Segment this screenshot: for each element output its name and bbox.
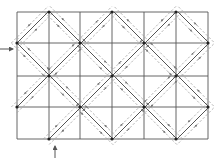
flow-arrow-icon — [162, 19, 164, 21]
sum-diagonal — [177, 108, 208, 139]
flow-arrow-icon — [67, 87, 69, 89]
input-arrows — [0, 49, 55, 158]
diff-diagonal — [178, 12, 208, 42]
flow-arrow-icon — [120, 88, 122, 90]
flow-arrow-icon — [31, 97, 33, 99]
flow-arrow-icon — [192, 52, 194, 54]
flow-arrow-icon — [151, 43, 153, 45]
flow-arrow-icon — [168, 125, 170, 127]
flow-arrow-icon — [34, 29, 36, 31]
dashed-offset-line — [49, 12, 182, 145]
sum-diagonal — [17, 12, 48, 43]
flow-arrow-icon — [23, 54, 25, 56]
flow-arrow-icon — [29, 24, 31, 26]
flow-arrow-icon — [167, 24, 169, 26]
flow-arrow-icon — [72, 44, 74, 46]
flow-arrow-icon — [121, 123, 123, 125]
flow-arrow-icon — [125, 67, 127, 69]
diff-diagonal — [17, 43, 113, 139]
flow-arrow-icon — [105, 61, 107, 63]
vertex-node — [110, 137, 113, 140]
flow-arrow-icon — [102, 26, 104, 28]
vertex-node — [142, 105, 145, 108]
flow-arrow-icon — [98, 82, 100, 84]
flow-arrow-icon — [104, 88, 106, 90]
vertex-node — [110, 10, 113, 13]
flow-arrow-icon — [105, 126, 107, 128]
vertex-node — [206, 41, 209, 44]
flow-arrow-icon — [198, 90, 200, 92]
flow-arrow-icon — [192, 96, 194, 98]
flow-arrow-icon — [194, 125, 196, 127]
vertex-node — [206, 105, 209, 108]
vertices — [15, 10, 209, 140]
vertex-node — [78, 105, 81, 108]
vertex-node — [110, 74, 113, 77]
flow-arrow-icon — [96, 20, 98, 22]
diamond-lattice-diagram — [0, 0, 220, 158]
vertex-node — [174, 10, 177, 13]
flow-arrow-icon — [25, 91, 27, 93]
vertex-node — [15, 105, 18, 108]
flow-arrow-icon — [189, 120, 191, 122]
flow-arrow-icon — [195, 23, 197, 25]
diagram-canvas — [0, 0, 220, 158]
vertex-node — [174, 74, 177, 77]
flow-arrow-icon — [189, 29, 191, 31]
flow-arrow-icon — [163, 130, 165, 132]
vertex-node — [174, 137, 177, 140]
flow-arrow-icon — [169, 73, 171, 75]
flow-arrow-icon — [57, 24, 59, 26]
flow-arrow-icon — [122, 26, 124, 28]
flow-arrow-icon — [145, 49, 147, 51]
vertex-node — [142, 41, 145, 44]
vertex-node — [78, 41, 81, 44]
flow-arrow-icon — [61, 93, 63, 95]
flow-arrow-icon — [62, 19, 64, 21]
flow-arrow-icon — [56, 125, 58, 127]
vertex-node — [47, 10, 50, 13]
flow-arrow-icon — [128, 20, 130, 22]
flow-arrow-icon — [119, 61, 121, 63]
vertex-node — [47, 137, 50, 140]
vertex-node — [15, 41, 18, 44]
dashed-offset-line — [43, 6, 176, 139]
dashed-offset-line — [50, 6, 183, 139]
dashed-offset-line — [44, 12, 177, 145]
diff-diagonal — [114, 12, 208, 106]
flow-arrow-icon — [100, 131, 102, 133]
flow-arrow-icon — [61, 130, 63, 132]
flow-arrow-icon — [127, 129, 129, 131]
flow-arrow-icon — [198, 58, 200, 60]
flow-arrow-icon — [99, 67, 101, 69]
flow-arrow-icon — [126, 82, 128, 84]
flow-arrow-icon — [28, 49, 30, 51]
vertex-node — [47, 74, 50, 77]
